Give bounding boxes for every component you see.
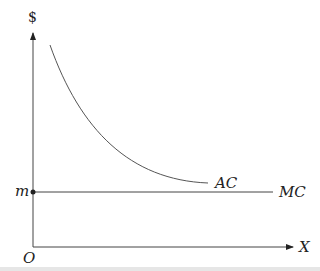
origin-label: O — [23, 249, 35, 267]
m-label: m — [15, 182, 29, 200]
y-axis-label: $ — [28, 9, 37, 25]
ac-curve — [50, 45, 208, 183]
mc-label: MC — [278, 183, 306, 201]
bottom-border — [0, 267, 320, 271]
cost-chart: $ X O m AC MC — [0, 0, 320, 271]
m-marker-dot — [31, 190, 36, 195]
x-axis-label: X — [298, 238, 311, 256]
ac-label: AC — [213, 174, 238, 192]
